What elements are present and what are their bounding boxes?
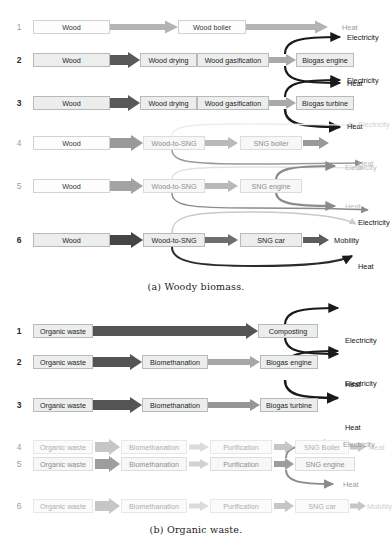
process-box-purification[interactable]: Purification <box>210 499 272 513</box>
flow-arrow <box>93 323 258 339</box>
row-number: 6 <box>14 235 24 245</box>
output-label-mobility: Mobility <box>334 236 359 245</box>
process-box-organic-waste[interactable]: Organic waste <box>33 324 93 338</box>
process-box-wood-drying[interactable]: Wood drying <box>140 96 197 110</box>
output-label-electricity: Electricity <box>345 336 377 345</box>
process-box-purification[interactable]: Purification <box>210 457 272 471</box>
process-box-biomethanation[interactable]: Biomethanation <box>142 355 208 369</box>
output-label-heat: Heat <box>342 23 358 32</box>
output-label-electricity: Electricity <box>343 440 375 449</box>
process-box-biomethanation[interactable]: Biomethanation <box>142 398 208 412</box>
process-box-wood-to-sng[interactable]: Wood-to-SNG <box>143 179 205 193</box>
row-number: 1 <box>14 326 24 336</box>
process-box-wood[interactable]: Wood <box>33 20 110 34</box>
process-box-biogas-turbine[interactable]: Biogas turbine <box>296 96 354 110</box>
process-box-biomethanation[interactable]: Biomethanation <box>121 440 187 454</box>
flow-arrow <box>208 398 260 412</box>
flow-arrow <box>274 440 294 454</box>
flow-arrow <box>274 457 294 471</box>
process-box-sng-car[interactable]: SNG car <box>295 499 349 513</box>
flow-arrow-out <box>246 20 328 34</box>
process-box-wood-to-sng[interactable]: Wood-to-SNG <box>143 233 205 247</box>
flow-arrow <box>93 354 142 370</box>
flow-arrow <box>350 500 366 512</box>
output-label-heat: Heat <box>345 202 361 211</box>
process-box-wood[interactable]: Wood <box>33 53 110 67</box>
flow-arrow <box>110 178 143 194</box>
row-number: 4 <box>14 138 24 148</box>
flow-arrow <box>95 498 120 514</box>
row-number: 1 <box>14 22 24 32</box>
output-label-mobility: Mobility <box>367 502 392 511</box>
row-number: 2 <box>14 357 24 367</box>
output-label-electricity: Electricity <box>358 120 390 129</box>
row-number: 3 <box>14 98 24 108</box>
process-box-sng-car[interactable]: SNG car <box>240 233 302 247</box>
process-box-wood-gasification[interactable]: Wood gasification <box>197 96 269 110</box>
figure-container: 1 Wood Wood boiler Heat 2 Wood Wood dryi… <box>0 0 392 543</box>
output-label-heat: Heat <box>358 262 374 271</box>
flow-arrow <box>110 95 140 111</box>
process-box-wood-to-sng[interactable]: Wood-to-SNG <box>143 136 205 150</box>
flow-arrow <box>269 96 296 110</box>
flow-arrow <box>269 53 296 67</box>
flow-arrow <box>274 499 294 513</box>
panel-organic-waste: 1 Organic waste Composting 2 Organic was… <box>0 292 392 520</box>
flow-arrow <box>110 52 140 68</box>
process-box-wood[interactable]: Wood <box>33 233 110 247</box>
process-box-biogas-engine[interactable]: Biogas engine <box>260 355 318 369</box>
process-box-biomethanation[interactable]: Biomethanation <box>121 457 187 471</box>
process-box-organic-waste[interactable]: Organic waste <box>33 457 93 471</box>
flow-arrow <box>189 500 209 512</box>
flow-arrow <box>208 355 260 369</box>
process-box-organic-waste[interactable]: Organic waste <box>33 398 93 412</box>
flow-arrow <box>110 135 143 151</box>
output-label-electricity: Electricity <box>345 163 377 172</box>
row-number: 5 <box>14 459 24 469</box>
process-box-biogas-engine[interactable]: Biogas engine <box>296 53 354 67</box>
flow-arrow <box>205 136 238 150</box>
process-box-biogas-turbine[interactable]: Biogas turbine <box>260 398 318 412</box>
process-box-wood[interactable]: Wood <box>33 179 110 193</box>
flow-arrow <box>205 233 238 247</box>
process-box-organic-waste[interactable]: Organic waste <box>33 440 93 454</box>
process-box-wood-drying[interactable]: Wood drying <box>140 53 197 67</box>
caption-panel-b: (b) Organic waste. <box>0 524 392 535</box>
flow-arrow <box>110 20 178 34</box>
process-box-wood-gasification[interactable]: Wood gasification <box>197 53 269 67</box>
process-box-sng-boiler[interactable]: SNG Boiler <box>295 440 349 454</box>
process-box-sng-engine[interactable]: SNG engine <box>240 179 302 193</box>
flow-arrow <box>93 397 142 413</box>
process-box-organic-waste[interactable]: Organic waste <box>33 355 93 369</box>
process-box-organic-waste[interactable]: Organic waste <box>33 499 93 513</box>
process-box-purification[interactable]: Purification <box>210 440 272 454</box>
process-box-wood[interactable]: Wood <box>33 96 110 110</box>
flow-arrow <box>205 179 238 193</box>
flow-arrow <box>95 456 120 472</box>
panel-woody-biomass: 1 Wood Wood boiler Heat 2 Wood Wood dryi… <box>0 0 392 278</box>
row-number: 3 <box>14 400 24 410</box>
output-label-electricity: Electricity <box>347 76 379 85</box>
process-box-wood-boiler[interactable]: Wood boiler <box>178 20 246 34</box>
row-number: 5 <box>14 181 24 191</box>
process-box-sng-boiler[interactable]: SNG boiler <box>240 136 302 150</box>
flow-arrow <box>110 232 143 248</box>
output-label-heat: Heat <box>345 423 361 432</box>
process-box-biomethanation[interactable]: Biomethanation <box>121 499 187 513</box>
row-number: 2 <box>14 55 24 65</box>
flow-arrow <box>303 233 329 247</box>
row-number: 4 <box>14 442 24 452</box>
flow-arrow <box>303 136 329 150</box>
output-label-electricity: Electricity <box>345 379 377 388</box>
flow-arrow <box>189 441 209 453</box>
process-box-sng-engine[interactable]: SNG engine <box>295 457 355 471</box>
process-box-wood[interactable]: Wood <box>33 136 110 150</box>
flow-arrow <box>95 439 120 455</box>
row-number: 6 <box>14 501 24 511</box>
flow-arrow <box>189 458 209 470</box>
output-label-electricity: Electricity <box>347 33 379 42</box>
output-label-electricity: Electricity <box>358 218 390 227</box>
caption-panel-a: (a) Woody biomass. <box>0 281 392 292</box>
output-label-heat: Heat <box>343 480 359 489</box>
process-box-composting[interactable]: Composting <box>258 324 318 338</box>
